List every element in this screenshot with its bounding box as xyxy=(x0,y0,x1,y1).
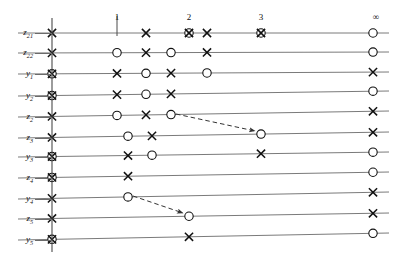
circle-marker xyxy=(167,110,175,118)
row-label-y3: y3 xyxy=(6,151,33,163)
timeline-row-line xyxy=(18,152,389,157)
row-label-leader xyxy=(35,117,52,118)
marker-circle[interactable] xyxy=(369,87,377,95)
timeline-row-line xyxy=(18,111,389,117)
circle-marker xyxy=(142,69,150,77)
circle-marker xyxy=(369,48,377,56)
circle-marker xyxy=(142,90,150,98)
circle-marker xyxy=(148,151,156,159)
arrow-z2-to-z3 xyxy=(176,114,255,131)
row-label-leader xyxy=(35,33,52,34)
timeline-row xyxy=(18,68,389,78)
marker-circle[interactable] xyxy=(124,132,132,140)
marker-circle[interactable] xyxy=(369,29,377,37)
row-label-subscript: 4 xyxy=(30,198,33,205)
circle-marker xyxy=(124,193,132,201)
row-label-leader xyxy=(35,138,52,139)
marker-circle[interactable] xyxy=(142,69,150,77)
timeline-row xyxy=(18,107,389,120)
row-label-subscript: 2 xyxy=(30,95,33,102)
row-label-subscript: 5 xyxy=(30,239,33,246)
marker-circle[interactable] xyxy=(369,48,377,56)
marker-circle[interactable] xyxy=(257,130,265,138)
column-label-2: 2 xyxy=(187,12,192,22)
circle-marker xyxy=(369,87,377,95)
circle-marker xyxy=(203,69,211,77)
timeline-row xyxy=(18,48,389,57)
row-label-leader xyxy=(35,53,52,54)
timeline-row-line xyxy=(18,233,389,240)
marker-circle[interactable] xyxy=(167,48,175,56)
row-label-z3: z3 xyxy=(6,132,33,144)
marker-circle-x[interactable] xyxy=(257,29,265,37)
circle-marker xyxy=(113,111,121,119)
circle-marker xyxy=(113,49,121,57)
marker-circle[interactable] xyxy=(113,111,121,119)
row-label-subscript: 3 xyxy=(30,156,33,163)
row-label-z5: z5 xyxy=(6,213,33,225)
timeline-row-line xyxy=(18,132,389,138)
row-label-z4: z4 xyxy=(6,172,33,184)
marker-circle[interactable] xyxy=(203,69,211,77)
row-label-leader xyxy=(35,157,52,158)
timeline-row xyxy=(18,168,389,182)
circle-marker xyxy=(369,229,377,237)
row-label-leader xyxy=(35,74,52,75)
row-label-leader xyxy=(35,178,52,179)
timeline-row xyxy=(18,209,389,222)
timeline-row-line xyxy=(18,192,389,199)
marker-circle-x[interactable] xyxy=(185,29,193,37)
column-label-1: 1 xyxy=(115,12,120,22)
row-label-z22: z22 xyxy=(6,47,33,59)
timeline-row xyxy=(18,148,389,161)
timeline-row xyxy=(18,188,389,202)
row-label-subscript: 4 xyxy=(30,177,33,184)
marker-circle[interactable] xyxy=(369,168,377,176)
marker-circle[interactable] xyxy=(124,193,132,201)
timeline-row-line xyxy=(18,172,389,178)
column-label-infinity: ∞ xyxy=(373,12,379,22)
timeline-row-line xyxy=(18,91,389,96)
event-timeline-figure: z21z22y1y2z2z3y3z4y4z5y5123∞ xyxy=(0,0,399,261)
row-label-y5: y5 xyxy=(6,234,33,246)
circle-marker xyxy=(369,29,377,37)
row-label-leader xyxy=(35,96,52,97)
timeline-row xyxy=(18,29,389,37)
circle-marker xyxy=(167,48,175,56)
row-label-y2: y2 xyxy=(6,90,33,102)
marker-circle[interactable] xyxy=(369,229,377,237)
marker-circle[interactable] xyxy=(369,148,377,156)
circle-marker xyxy=(369,168,377,176)
circle-marker xyxy=(124,132,132,140)
figure-canvas xyxy=(0,0,399,261)
marker-circle[interactable] xyxy=(113,49,121,57)
circle-marker xyxy=(185,212,193,220)
timeline-row xyxy=(18,128,389,141)
marker-circle[interactable] xyxy=(185,212,193,220)
row-label-y4: y4 xyxy=(6,193,33,205)
timeline-row xyxy=(18,229,389,243)
row-label-subscript: 3 xyxy=(30,137,33,144)
row-label-z2: z2 xyxy=(6,111,33,123)
marker-circle[interactable] xyxy=(142,90,150,98)
arrow-y4-to-z5 xyxy=(133,196,183,213)
timeline-row xyxy=(18,87,389,100)
timeline-row-line xyxy=(18,52,389,53)
row-label-y1: y1 xyxy=(6,68,33,80)
circle-marker xyxy=(257,130,265,138)
row-label-subscript: 21 xyxy=(27,32,33,39)
row-label-subscript: 2 xyxy=(30,116,33,123)
row-label-subscript: 1 xyxy=(30,73,33,80)
column-label-3: 3 xyxy=(259,12,264,22)
row-label-leader xyxy=(35,199,52,200)
marker-circle[interactable] xyxy=(167,110,175,118)
row-label-subscript: 22 xyxy=(27,52,33,59)
marker-circle[interactable] xyxy=(148,151,156,159)
row-label-subscript: 5 xyxy=(30,218,33,225)
row-label-z21: z21 xyxy=(6,27,33,39)
timeline-row-line xyxy=(18,213,389,219)
row-label-leader xyxy=(35,219,52,220)
row-label-leader xyxy=(35,240,52,241)
circle-marker xyxy=(369,148,377,156)
